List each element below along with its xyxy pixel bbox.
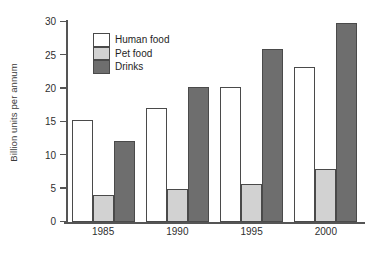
legend-label: Drinks xyxy=(115,61,143,72)
y-axis-tick-label: 10 xyxy=(45,149,56,160)
legend-swatch-pet xyxy=(93,47,110,61)
bar-group xyxy=(215,22,289,222)
bar-drinks xyxy=(262,49,283,222)
bar-human xyxy=(220,87,241,222)
y-axis-tick-label: 30 xyxy=(45,16,56,27)
bar-pet xyxy=(93,195,114,222)
y-axis-tick-label: 0 xyxy=(50,216,56,227)
bar-human xyxy=(72,120,93,222)
x-axis-tick-label: 1990 xyxy=(140,226,214,237)
bar-human xyxy=(146,108,167,222)
x-axis-tick-label: 1985 xyxy=(66,226,140,237)
y-axis-tick-label: 15 xyxy=(45,116,56,127)
y-axis-title-text: Billion units per annum xyxy=(8,63,19,161)
y-axis-tick-label: 25 xyxy=(45,49,56,60)
bar-drinks xyxy=(336,23,357,222)
legend-item: Pet food xyxy=(93,47,169,61)
bar-drinks xyxy=(188,87,209,222)
legend-label: Pet food xyxy=(115,48,152,59)
y-axis-tick-label: 20 xyxy=(45,82,56,93)
chart-legend: Human foodPet foodDrinks xyxy=(93,33,169,74)
legend-label: Human food xyxy=(115,34,169,45)
bar-pet xyxy=(241,184,262,222)
y-axis-title: Billion units per annum xyxy=(2,0,24,225)
legend-swatch-drinks xyxy=(93,60,110,74)
bar-pet xyxy=(167,189,188,222)
bar-chart: Billion units per annum 051015202530 Hum… xyxy=(0,0,377,261)
bar-human xyxy=(294,67,315,222)
legend-swatch-human xyxy=(93,33,110,47)
bar-drinks xyxy=(114,141,135,222)
bar-pet xyxy=(315,169,336,222)
y-axis-tick-label: 5 xyxy=(50,182,56,193)
legend-item: Drinks xyxy=(93,60,169,74)
bar-group xyxy=(289,22,363,222)
x-axis-tick-label: 1995 xyxy=(215,226,289,237)
x-axis-line xyxy=(64,222,365,224)
legend-item: Human food xyxy=(93,33,169,47)
x-axis-tick-label: 2000 xyxy=(289,226,363,237)
